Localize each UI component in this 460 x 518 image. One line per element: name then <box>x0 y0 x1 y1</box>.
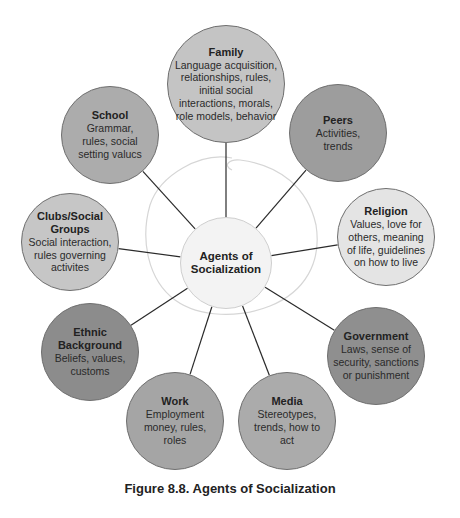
node-government: Government Laws, sense of security, sanc… <box>327 307 425 405</box>
node-media: Media Stereotypes, trends, how to act <box>238 372 336 470</box>
connector-line-school <box>143 171 195 229</box>
node-description: Laws, sense of security, sanctions or pu… <box>331 343 421 381</box>
node-description: Stereotypes, trends, how to act <box>252 408 322 446</box>
connector-line-media <box>243 306 270 375</box>
connector-line-clubs-social-groups <box>119 249 181 257</box>
node-title: Work <box>161 395 188 408</box>
node-title: Government <box>344 330 409 343</box>
node-description: Activities, trends <box>308 127 368 152</box>
node-title: Family <box>209 46 244 59</box>
node-ethnic-background: Ethnic Background Beliefs, values, custo… <box>41 303 139 401</box>
node-title: Clubs/Social Groups <box>29 210 111 236</box>
node-title: School <box>92 109 129 122</box>
node-title: Religion <box>364 205 407 218</box>
center-node-agents-of-socialization: Agents of Socialization <box>180 217 272 309</box>
node-school: School Grammar, rules, social setting va… <box>61 86 159 184</box>
agents-of-socialization-diagram: Agents of Socialization Family Language … <box>0 0 460 490</box>
node-description: Social interaction, rules governing acti… <box>25 236 115 274</box>
node-title: Ethnic Background <box>49 326 131 352</box>
node-family: Family Language acquisition, relationshi… <box>167 25 285 143</box>
connector-line-ethnic-background <box>131 288 188 325</box>
center-title-line2: Socialization <box>191 263 261 276</box>
node-description: Employment money, rules, roles <box>141 408 209 446</box>
node-title: Peers <box>323 114 353 127</box>
connector-line-work <box>190 307 212 375</box>
node-clubs-social-groups: Clubs/Social Groups Social interaction, … <box>21 193 119 291</box>
connector-line-government <box>265 287 334 330</box>
node-title: Media <box>271 395 302 408</box>
node-description: Values, love for others, meaning of life… <box>346 218 426 269</box>
node-description: Grammar, rules, social setting valucs <box>75 122 145 160</box>
connector-line-peers <box>256 170 306 228</box>
node-description: Language acquisition, relationships, rul… <box>174 59 278 123</box>
node-peers: Peers Activities, trends <box>289 84 387 182</box>
node-work: Work Employment money, rules, roles <box>126 372 224 470</box>
node-religion: Religion Values, love for others, meanin… <box>337 188 435 286</box>
figure-caption: Figure 8.8. Agents of Socialization <box>0 481 460 496</box>
connector-line-religion <box>271 245 337 256</box>
node-description: Beliefs, values, customs <box>50 352 130 377</box>
center-title-line1: Agents of <box>199 250 252 263</box>
